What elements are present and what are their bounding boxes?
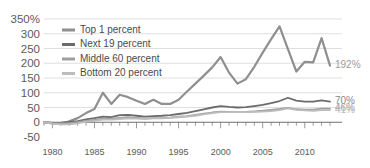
- series-end-labels: 192%70%46%41%: [335, 59, 361, 115]
- x-axis: [44, 122, 342, 128]
- x-axis-tick-label: 1980: [42, 147, 62, 157]
- series-end-label: 41%: [335, 104, 355, 115]
- y-axis-tick-label: 200: [21, 57, 40, 69]
- x-axis-tick-label: 2000: [211, 147, 231, 157]
- chart-container: 350%300250200150100500-50 19801985199019…: [0, 0, 370, 168]
- chart-legend: Top 1 percentNext 19 percentMiddle 60 pe…: [62, 24, 162, 79]
- series-line: [44, 98, 330, 123]
- x-axis-tick-label: 1990: [127, 147, 147, 157]
- x-axis-tick-labels: 1980198519901995200020052010: [42, 147, 314, 157]
- y-axis-tick-label: 100: [21, 87, 40, 99]
- y-axis-tick-label: 250: [21, 43, 40, 55]
- series-end-label: 192%: [335, 59, 361, 70]
- y-axis-tick-label: 0: [34, 116, 40, 128]
- y-axis-tick-labels: 350%300250200150100500-50: [11, 13, 40, 143]
- x-axis-tick-label: 2005: [253, 147, 273, 157]
- legend-label: Middle 60 percent: [80, 53, 160, 64]
- x-axis-tick-label: 1985: [84, 147, 104, 157]
- legend-label: Next 19 percent: [80, 38, 151, 49]
- x-axis-tick-label: 1995: [169, 147, 189, 157]
- y-axis-tick-label: 150: [21, 72, 40, 84]
- y-axis-tick-label: 300: [21, 28, 40, 40]
- x-axis-tick-label: 2010: [295, 147, 315, 157]
- legend-label: Bottom 20 percent: [80, 67, 162, 78]
- y-axis-tick-label: -50: [23, 131, 40, 143]
- line-chart: 350%300250200150100500-50 19801985199019…: [0, 0, 370, 168]
- y-axis-tick-label: 50: [27, 102, 40, 114]
- y-axis-tick-label: 350%: [11, 13, 40, 25]
- legend-label: Top 1 percent: [80, 24, 141, 35]
